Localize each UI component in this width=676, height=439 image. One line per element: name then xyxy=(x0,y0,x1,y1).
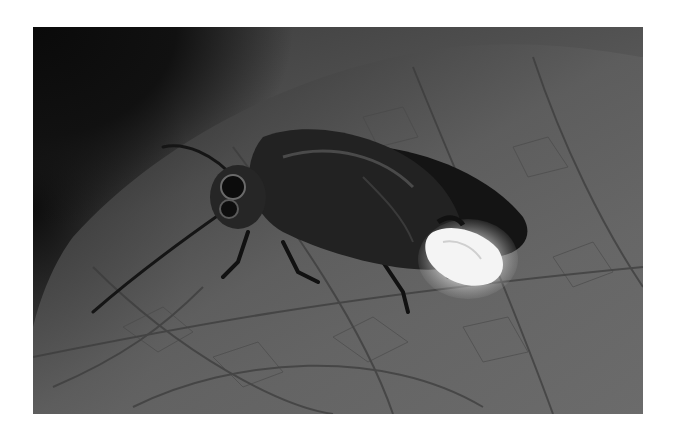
firefly-on-leaf-illustration xyxy=(33,27,643,414)
firefly-photo xyxy=(33,27,643,414)
firefly-eye xyxy=(221,175,245,199)
